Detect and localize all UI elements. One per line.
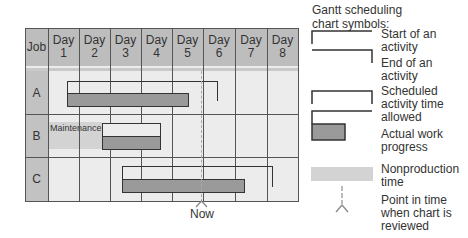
legend-item-review-point: Point in time when chart is reviewed: [381, 194, 452, 233]
header-job: Job: [25, 28, 48, 66]
header-day-3: Day3: [110, 28, 141, 66]
day-number: 6: [208, 47, 229, 60]
grid-line: [298, 28, 299, 202]
legend-item-scheduled: Scheduled activity time allowed: [381, 85, 444, 124]
actual-progress-bar-c: [122, 179, 245, 193]
actual-progress-bar-b: [102, 136, 161, 150]
header-day-6: Day6: [203, 28, 235, 66]
end-bracket-icon: [310, 48, 374, 65]
job-label: B: [32, 129, 40, 143]
header-day-1: Day1: [48, 28, 79, 66]
now-marker-line: [201, 71, 202, 202]
grid-line: [25, 157, 299, 158]
actual-progress-icon: [310, 109, 374, 142]
day-number: 3: [115, 47, 136, 60]
nonproduction-icon: [311, 167, 373, 181]
legend-text-line: progress: [381, 141, 443, 154]
legend-item-nonproduction: Nonproduction time: [381, 163, 459, 189]
legend-text-line: reviewed: [381, 220, 452, 233]
day-number: 5: [177, 47, 198, 60]
day-number: 1: [53, 47, 74, 60]
job-cell-b: B: [25, 114, 48, 157]
header-job-label: Job: [27, 41, 46, 54]
grid-line: [25, 114, 299, 115]
legend-text-line: allowed: [381, 111, 444, 124]
actual-progress-bar-a: [67, 93, 189, 107]
legend-item-end: End of an activity: [381, 57, 432, 83]
legend-item-start: Start of an activity: [381, 28, 436, 54]
scheduled-bracket-icon: [310, 89, 374, 106]
legend-title-line: Gantt scheduling: [312, 3, 402, 17]
header-day-8: Day8: [267, 28, 298, 66]
now-label: Now: [190, 207, 214, 221]
legend-text-line: time: [381, 176, 459, 189]
header-day-7: Day7: [235, 28, 267, 66]
job-label: C: [32, 172, 41, 186]
scheduled-box-b: [102, 123, 161, 137]
maintenance-label: Maintenance: [50, 123, 102, 133]
day-number: 7: [240, 47, 261, 60]
grid-line: [25, 201, 299, 202]
start-bracket-icon: [310, 29, 374, 46]
legend-text-line: activity: [381, 41, 436, 54]
legend-item-actual: Actual work progress: [381, 128, 443, 154]
grid-line: [25, 28, 299, 29]
job-label: A: [32, 86, 40, 100]
day-number: 8: [272, 47, 293, 60]
job-cell-c: C: [25, 157, 48, 201]
header-day-2: Day2: [79, 28, 110, 66]
job-cell-a: A: [25, 71, 48, 114]
review-point-icon: [335, 185, 349, 214]
header-day-5: Day5: [172, 28, 203, 66]
legend-text-line: activity: [381, 70, 432, 83]
day-number: 2: [84, 47, 105, 60]
day-number: 4: [146, 47, 167, 60]
header-day-4: Day4: [141, 28, 172, 66]
